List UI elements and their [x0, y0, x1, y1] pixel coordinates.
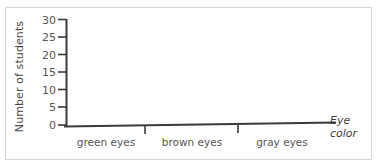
- x-category-label-gray-eyes: gray eyes: [240, 136, 324, 148]
- x-category-label-green-eyes: green eyes: [68, 136, 144, 148]
- x-axis-title-line-2: color: [330, 127, 376, 140]
- x-axis-title: Eye color: [330, 114, 376, 140]
- x-axis-title-line-1: Eye: [330, 114, 376, 127]
- x-axis-category-labels: green eyes brown eyes gray eyes: [0, 0, 380, 165]
- x-category-label-brown-eyes: brown eyes: [147, 136, 237, 148]
- bar-chart: Number of students 30 25 20 15 10 5 0 gr…: [0, 0, 380, 165]
